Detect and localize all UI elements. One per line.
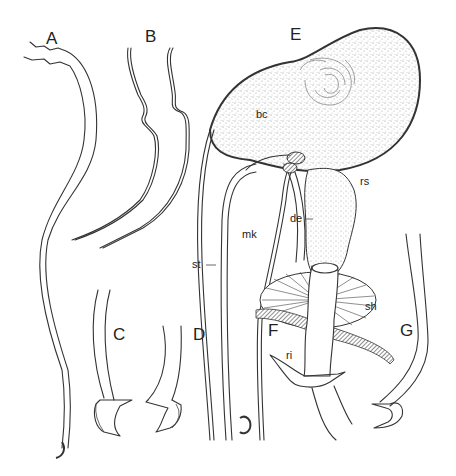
bursa-copulatrix [210,28,420,171]
panel-f [256,263,394,440]
label-de: de [290,212,302,224]
label-rs: rs [360,175,370,187]
label-sh: sh [365,300,377,312]
panel-label-b: B [145,27,156,46]
label-mk: mk [242,228,257,240]
illustration-svg: A B C D [0,0,456,476]
panel-label-e: E [290,25,301,44]
panel-label-d: D [193,325,205,344]
label-st: st [192,258,201,270]
panel-label-f: F [268,321,278,340]
label-bc: bc [256,108,268,120]
receptaculum-seminis [305,168,356,279]
label-ri: ri [286,349,292,361]
panel-a [24,42,97,458]
panel-e [198,28,421,440]
scientific-illustration: A B C D [0,0,456,476]
panel-label-c: C [113,325,125,344]
panel-label-g: G [400,321,413,340]
panel-c [93,290,132,436]
panel-label-a: A [46,29,58,48]
panel-d [146,326,181,432]
panel-b [72,48,189,248]
